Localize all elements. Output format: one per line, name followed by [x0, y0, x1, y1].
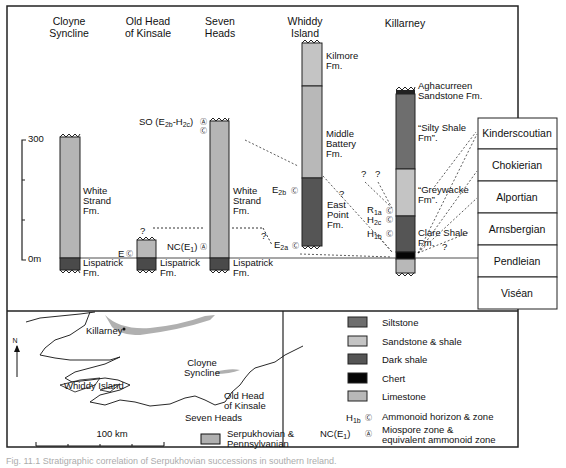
- svg-text:Ⓒ: Ⓒ: [386, 230, 393, 237]
- killarney-dot: [123, 328, 126, 331]
- svg-text:Sandstone Fm.: Sandstone Fm.: [418, 90, 482, 101]
- unit-limestone: [396, 259, 415, 273]
- svg-text:Syncline: Syncline: [184, 367, 220, 378]
- unit-white-strand: [210, 121, 229, 258]
- unit-kilmore: [302, 43, 322, 86]
- svg-text:Fm”.: Fm”.: [418, 132, 438, 143]
- svg-text:Fm”.: Fm”.: [418, 194, 438, 205]
- unit-clare-shale: [396, 216, 415, 252]
- locality-title-killarney: Killarney: [385, 17, 426, 29]
- svg-text:Fm.: Fm.: [327, 219, 343, 230]
- svg-text:Old Head: Old Head: [126, 15, 171, 27]
- column-oldhead: Lispatrick Fm. ? E Ⓒ NC(E1) Ⓐ: [118, 225, 207, 278]
- svg-text:Sandstone & shale: Sandstone & shale: [382, 336, 462, 347]
- unit-lispatrick: [210, 258, 229, 270]
- svg-text:Fm.: Fm.: [233, 267, 249, 278]
- svg-text:Fm.: Fm.: [83, 205, 99, 216]
- locality-title-oldhead: Old Head of Kinsale: [125, 15, 171, 39]
- svg-text:Ⓒ: Ⓒ: [291, 187, 298, 194]
- column-cloyne: White Strand Fm. Lispatrick Fm.: [60, 134, 123, 278]
- svg-text:Chokierian: Chokierian: [492, 159, 542, 171]
- locality-title-sevenheads: Seven Heads: [205, 15, 235, 39]
- unit-greywacke: [396, 169, 415, 216]
- svg-text:Fm.: Fm.: [326, 148, 342, 159]
- svg-text:Fm.: Fm.: [418, 237, 434, 248]
- svg-text:Dark shale: Dark shale: [382, 354, 427, 365]
- unit-chert: [396, 252, 415, 259]
- svg-text:N: N: [12, 337, 17, 344]
- legend-swatch-dark-shale: [348, 354, 367, 364]
- locality-title-whiddy: Whiddy Island: [287, 15, 323, 39]
- legend-swatch-siltstone: [348, 317, 367, 327]
- svg-text:Arnsbergian: Arnsbergian: [489, 223, 546, 235]
- svg-text:Killarney: Killarney: [385, 17, 426, 29]
- column-sevenheads: White Strand Fm. Lispatrick Fm. SO (E2b-…: [139, 116, 273, 278]
- svg-text:Alportian: Alportian: [496, 191, 538, 203]
- svg-text:Whiddy Island: Whiddy Island: [64, 380, 124, 391]
- legend-miospore-symbol: NC(E1): [320, 428, 350, 440]
- legend-swatch-sandstone: [348, 336, 367, 346]
- svg-text:Ⓒ: Ⓒ: [386, 216, 393, 223]
- serpukhovian-swatch: [201, 434, 220, 444]
- svg-text:Fm.: Fm.: [233, 205, 249, 216]
- svg-text:Ⓒ: Ⓒ: [365, 414, 372, 421]
- svg-text:Seven Heads: Seven Heads: [185, 412, 242, 423]
- column-killarney: Aghacurreen Sandstone Fm. “Silty Shale F…: [361, 80, 482, 276]
- unit-limestone: [137, 240, 156, 258]
- svg-text:Ammonoid horizon & zone: Ammonoid horizon & zone: [382, 411, 493, 422]
- locality-title-cloyne: Cloyne Syncline: [49, 15, 89, 39]
- scale-bar: 100 km: [36, 428, 164, 446]
- svg-text:Ⓐ: Ⓐ: [200, 243, 207, 250]
- unit-middle-battery: [302, 86, 322, 178]
- svg-text:100 km: 100 km: [96, 428, 127, 439]
- unit-lispatrick: [60, 258, 80, 270]
- svg-text:Kinderscoutian: Kinderscoutian: [482, 127, 552, 139]
- legend-ammonoid-symbol: H1b: [346, 412, 361, 424]
- svg-text:Cloyne: Cloyne: [53, 15, 86, 27]
- svg-text:Pendleian: Pendleian: [494, 255, 541, 267]
- svg-text:Ⓒ: Ⓒ: [292, 242, 299, 249]
- unit-lispatrick: [137, 258, 156, 270]
- svg-text:?: ?: [361, 168, 366, 179]
- svg-text:Limestone: Limestone: [382, 391, 426, 402]
- scale-top-label: 300: [28, 133, 44, 144]
- stage-chart: Kinderscoutian Chokierian Alportian Arns…: [478, 118, 557, 309]
- svg-text:Seven: Seven: [205, 15, 235, 27]
- svg-text:Whiddy: Whiddy: [287, 15, 323, 27]
- thickness-scale: 300 0m: [22, 133, 44, 264]
- svg-text:Ⓐ: Ⓐ: [365, 430, 372, 437]
- svg-text:Island: Island: [291, 27, 319, 39]
- zone-e2a: E2a: [274, 239, 288, 251]
- svg-text:Siltstone: Siltstone: [382, 317, 418, 328]
- zone-e2b: E2b: [272, 184, 286, 196]
- svg-text:?: ?: [140, 225, 145, 236]
- svg-text:of Kinsale: of Kinsale: [224, 400, 266, 411]
- legend-swatch-limestone: [348, 391, 367, 401]
- svg-text:Ⓒ: Ⓒ: [126, 250, 133, 257]
- unit-east-point: [302, 178, 322, 246]
- svg-text:?: ?: [339, 188, 344, 199]
- zone-e: E: [118, 248, 124, 259]
- location-map: Killarney Whiddy Island Cloyne Syncline …: [12, 312, 303, 449]
- svg-text:?: ?: [375, 168, 380, 179]
- svg-text:Fm.: Fm.: [83, 267, 99, 278]
- svg-text:Viséan: Viséan: [501, 287, 533, 299]
- north-arrow-icon: N: [12, 337, 20, 377]
- svg-text:Ⓒ: Ⓒ: [386, 207, 393, 214]
- figure-caption: Fig. 11.1 Stratigraphic correlation of S…: [6, 456, 337, 466]
- zone-nc-e1: NC(E1): [167, 241, 197, 253]
- unit-white-strand: [60, 137, 80, 258]
- legend-swatch-chert: [348, 373, 367, 383]
- svg-text:Ⓒ: Ⓒ: [200, 127, 207, 134]
- svg-text:Fm.: Fm.: [160, 267, 176, 278]
- unit-silty-shale: [396, 94, 415, 169]
- correlation-figure: Cloyne Syncline Old Head of Kinsale Seve…: [0, 0, 566, 468]
- scale-bottom-label: 0m: [28, 253, 41, 264]
- lithology-legend: Siltstone Sandstone & shale Dark shale C…: [320, 317, 496, 445]
- svg-text:Pennsylvanian: Pennsylvanian: [227, 438, 289, 449]
- zone-so: SO (E2b-H2c): [139, 116, 193, 128]
- svg-text:equivalent ammonoid zone: equivalent ammonoid zone: [382, 434, 496, 445]
- svg-text:of Kinsale: of Kinsale: [125, 27, 171, 39]
- svg-text:Killarney: Killarney: [86, 325, 123, 336]
- svg-text:Chert: Chert: [382, 373, 406, 384]
